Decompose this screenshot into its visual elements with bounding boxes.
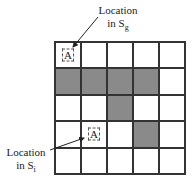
arrow-to-si xyxy=(50,138,84,150)
arrow-to-sg xyxy=(73,17,98,47)
arrows xyxy=(0,0,196,184)
